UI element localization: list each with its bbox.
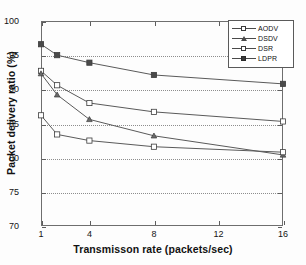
y-tick-label: 70	[0, 221, 19, 231]
data-point-marker	[280, 119, 285, 124]
y-tick-label: 75	[0, 187, 19, 197]
legend-item-aodv: AODV	[232, 24, 290, 33]
data-point-marker	[55, 53, 60, 58]
x-tick-mark	[284, 221, 285, 225]
x-tick-label: 16	[271, 229, 295, 239]
data-point-marker	[55, 83, 60, 88]
legend-marker-icon	[232, 34, 256, 43]
data-point-marker	[280, 150, 285, 155]
legend-label: DSR	[256, 45, 273, 52]
data-point-marker	[38, 42, 43, 47]
x-axis-title: Transmisson rate (packets/sec)	[0, 243, 306, 255]
legend-marker-icon	[232, 44, 256, 53]
series-aodv	[38, 68, 285, 124]
x-tick-label: 4	[77, 229, 101, 239]
legend-item-dsr: DSR	[232, 44, 290, 53]
legend-marker-icon	[232, 24, 256, 33]
legend-label: AODV	[256, 25, 278, 32]
data-point-marker	[151, 144, 156, 149]
data-point-marker	[87, 138, 92, 143]
data-point-marker	[55, 132, 60, 137]
legend-label: LDPR	[256, 55, 277, 62]
legend-item-dsdv: DSDV	[232, 34, 290, 43]
legend-label: DSDV	[256, 35, 278, 42]
y-tick-label: 100	[0, 16, 19, 26]
y-tick-mark	[42, 227, 46, 228]
data-point-marker	[87, 100, 92, 105]
legend-item-ldpr: LDPR	[232, 54, 290, 63]
legend-marker-icon	[232, 54, 256, 63]
data-point-marker	[151, 109, 156, 114]
packet-delivery-ratio-chart: Packet delivery ratio (%) Transmisson ra…	[0, 0, 306, 265]
x-tick-label: 1	[29, 229, 53, 239]
data-point-marker	[38, 113, 43, 118]
data-point-marker	[280, 81, 285, 86]
y-tick-label: 95	[0, 50, 19, 60]
series-line	[41, 115, 283, 152]
data-point-marker	[87, 60, 92, 65]
legend: AODVDSDVDSRLDPR	[228, 20, 294, 68]
series-line	[41, 71, 283, 122]
series-line	[41, 74, 283, 155]
x-tick-label: 12	[206, 229, 230, 239]
y-tick-mark	[278, 227, 282, 228]
series-dsdv	[38, 71, 286, 157]
x-tick-label: 8	[142, 229, 166, 239]
y-tick-label: 80	[0, 153, 19, 163]
y-tick-label: 85	[0, 119, 19, 129]
y-tick-label: 90	[0, 84, 19, 94]
data-point-marker	[151, 72, 156, 77]
